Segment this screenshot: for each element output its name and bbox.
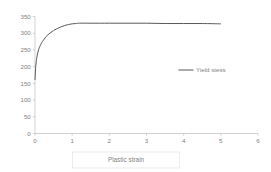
yield-stress-line-chart: 050100150200250300350 0123456 Yield stes… (0, 0, 271, 172)
y-tick-label: 150 (20, 80, 31, 87)
x-tick-label: 3 (145, 137, 149, 144)
y-tick-label: 300 (20, 29, 31, 36)
plot-background (0, 0, 271, 172)
chart-screenshot: 050100150200250300350 0123456 Yield stes… (0, 0, 271, 172)
y-tick-label: 200 (20, 63, 31, 70)
x-tick-label: 6 (256, 137, 260, 144)
legend-label: Yield stess (196, 66, 226, 73)
y-tick-label: 50 (24, 113, 31, 120)
y-tick-label: 0 (27, 130, 31, 137)
x-tick-label: 2 (108, 137, 112, 144)
y-tick-label: 100 (20, 96, 31, 103)
y-tick-label: 250 (20, 46, 31, 53)
x-axis-title-label: Plastic strain (108, 156, 145, 163)
y-tick-label: 350 (20, 13, 31, 20)
x-tick-label: 4 (182, 137, 186, 144)
x-tick-label: 0 (33, 137, 37, 144)
x-tick-label: 1 (70, 137, 74, 144)
x-tick-label: 5 (219, 137, 223, 144)
